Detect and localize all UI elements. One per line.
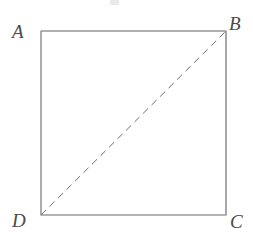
vertex-label-a: A: [12, 22, 24, 41]
vertex-label-b: B: [229, 14, 241, 33]
vertex-label-c: C: [230, 212, 243, 231]
square-diagram-canvas: [0, 0, 253, 242]
diagonal-db-dashed: [41, 31, 226, 215]
geometry-figure: A B C D: [0, 0, 253, 242]
vertex-label-d: D: [12, 211, 26, 230]
